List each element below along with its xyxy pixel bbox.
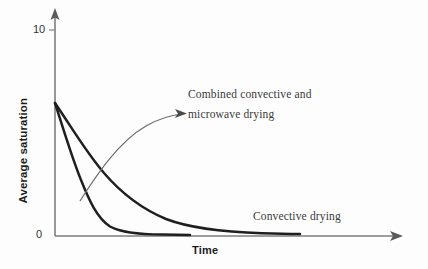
annotation-leader-arrowhead [175, 109, 188, 118]
annotation-combined-microwave-line1: Combined convective and [188, 89, 312, 101]
y-axis-title: Average saturation [18, 86, 30, 216]
y-axis-tick-label-0: 0 [36, 229, 42, 240]
plot-area [0, 0, 428, 269]
annotation-combined-microwave-line2: microwave drying [188, 109, 274, 121]
chart-figure: Average saturation Time 10 0 Combined co… [0, 0, 428, 269]
annotation-leader-line [80, 114, 182, 201]
series-line-combined-microwave-drying [55, 103, 190, 235]
annotation-convective-drying: Convective drying [253, 211, 341, 223]
y-axis-tick-label-10: 10 [33, 24, 45, 35]
x-axis-title: Time [192, 245, 218, 256]
